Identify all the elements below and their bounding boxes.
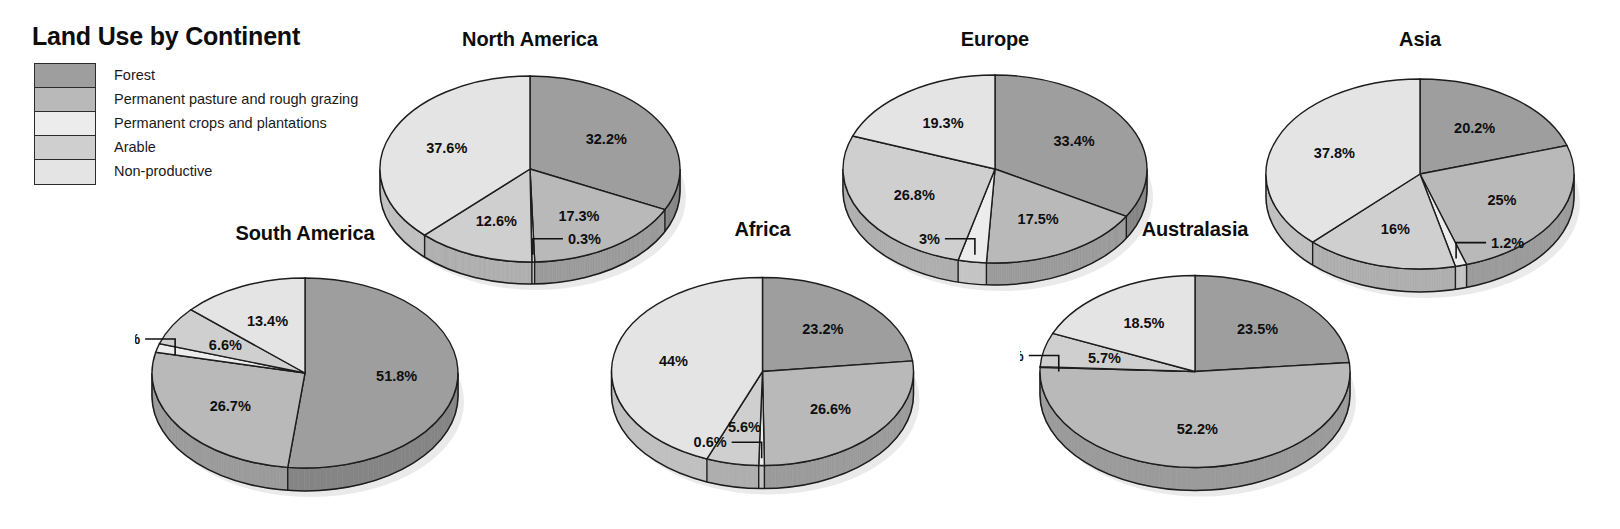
legend-swatch-1 <box>35 88 95 112</box>
slice-label: 16% <box>1381 221 1410 237</box>
slice-label: 0.1% <box>1020 348 1024 364</box>
slice-label: 26.8% <box>894 187 935 203</box>
slice-label: 6.6% <box>209 337 242 353</box>
pie-panel-south-america: South America51.8%26.7%1.5%6.6%13.4% <box>135 222 475 482</box>
pie-svg-australasia: 23.5%52.2%0.1%5.7%18.5% <box>1020 244 1370 509</box>
slice-label: 1.2% <box>1491 235 1524 251</box>
pie-panel-africa: Africa23.2%26.6%0.6%5.6%44% <box>590 218 935 483</box>
slice-label: 33.4% <box>1054 133 1095 149</box>
slice-label: 26.6% <box>810 401 851 417</box>
pie-title-australasia: Australasia <box>1020 218 1370 241</box>
legend-label-2: Permanent crops and plantations <box>114 111 358 135</box>
slice-label: 32.2% <box>586 131 627 147</box>
slice-label: 20.2% <box>1454 120 1495 136</box>
chart-canvas: Land Use by Continent ForestPermanent pa… <box>0 0 1620 529</box>
legend-swatch-0 <box>35 64 95 88</box>
slice-label: 26.7% <box>210 398 251 414</box>
pie-top-face <box>612 278 914 466</box>
pie-svg-africa: 23.2%26.6%0.6%5.6%44% <box>590 244 935 509</box>
pie-title-europe: Europe <box>820 28 1170 51</box>
slice-label: 23.5% <box>1237 321 1278 337</box>
legend: Land Use by Continent ForestPermanent pa… <box>30 22 390 185</box>
pie-title-north-america: North America <box>360 28 700 51</box>
slice-label: 1.5% <box>135 331 140 347</box>
slice-label: 12.6% <box>476 213 517 229</box>
legend-swatch-3 <box>35 136 95 160</box>
slice-label: 19.3% <box>922 115 963 131</box>
slice-label: 0.6% <box>694 434 727 450</box>
legend-label-0: Forest <box>114 63 358 87</box>
chart-title: Land Use by Continent <box>32 22 390 51</box>
legend-swatch-2 <box>35 112 95 136</box>
slice-label: 5.6% <box>728 419 761 435</box>
pie-svg-south-america: 51.8%26.7%1.5%6.6%13.4% <box>135 248 475 508</box>
pie-panel-australasia: Australasia23.5%52.2%0.1%5.7%18.5% <box>1020 218 1370 483</box>
legend-label-3: Arable <box>114 135 358 159</box>
legend-swatch-4 <box>35 160 95 184</box>
pie-title-south-america: South America <box>135 222 475 245</box>
legend-swatch-stack <box>34 63 96 185</box>
pie-title-asia: Asia <box>1245 28 1595 51</box>
slice-label: 23.2% <box>802 321 843 337</box>
slice-label: 25% <box>1487 192 1516 208</box>
slice-label: 37.8% <box>1314 145 1355 161</box>
slice-label: 52.2% <box>1177 421 1218 437</box>
legend-label-1: Permanent pasture and rough grazing <box>114 87 358 111</box>
pie-top-face <box>1040 276 1350 468</box>
slice-label: 13.4% <box>247 313 288 329</box>
legend-label-stack: ForestPermanent pasture and rough grazin… <box>114 63 358 183</box>
slice-label: 37.6% <box>426 140 467 156</box>
legend-label-4: Non-productive <box>114 159 358 183</box>
slice-label: 44% <box>659 353 688 369</box>
slice-label: 18.5% <box>1123 315 1164 331</box>
pie-title-africa: Africa <box>590 218 935 241</box>
slice-label: 5.7% <box>1088 350 1121 366</box>
slice-label: 51.8% <box>376 368 417 384</box>
